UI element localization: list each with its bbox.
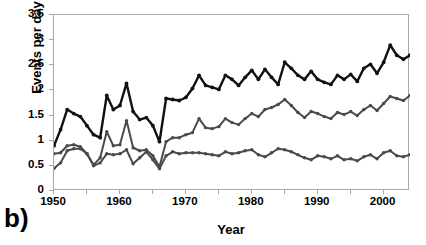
- data-point-marker: [395, 53, 399, 57]
- data-point-marker: [145, 150, 148, 153]
- data-point-marker: [65, 149, 68, 152]
- data-point-marker: [217, 125, 220, 128]
- data-point-marker: [342, 77, 346, 81]
- data-point-marker: [256, 77, 260, 81]
- data-point-marker: [270, 75, 274, 79]
- data-point-marker: [171, 150, 174, 153]
- data-point-marker: [191, 151, 194, 154]
- data-point-marker: [336, 154, 339, 157]
- data-point-marker: [388, 43, 392, 47]
- data-point-marker: [349, 157, 352, 160]
- data-point-marker: [243, 75, 247, 79]
- data-point-marker: [283, 98, 286, 101]
- data-point-marker: [79, 147, 82, 150]
- data-point-marker: [237, 123, 240, 126]
- data-point-marker: [164, 140, 167, 143]
- data-point-marker: [151, 158, 154, 161]
- data-point-marker: [402, 57, 406, 61]
- data-point-marker: [184, 133, 187, 136]
- data-point-marker: [171, 136, 174, 139]
- x-tick-mark: [317, 190, 318, 194]
- data-point-marker: [395, 154, 398, 157]
- x-tick-mark: [383, 190, 384, 194]
- data-point-marker: [382, 151, 385, 154]
- data-point-marker: [178, 136, 181, 139]
- x-tick-mark: [251, 190, 252, 194]
- data-point-marker: [342, 158, 345, 161]
- y-tick-label: 1.5: [0, 109, 44, 121]
- data-point-marker: [112, 144, 115, 147]
- y-tick-label: 3: [0, 33, 44, 45]
- x-tick-mark: [152, 190, 153, 194]
- data-point-marker: [118, 152, 121, 155]
- data-series-middle: [54, 94, 410, 169]
- x-tick-mark: [350, 190, 351, 194]
- data-point-marker: [355, 79, 359, 83]
- data-point-marker: [250, 148, 253, 151]
- data-point-marker: [316, 154, 319, 157]
- data-point-marker: [336, 73, 340, 77]
- data-point-marker: [263, 108, 266, 111]
- data-point-marker: [382, 60, 386, 64]
- y-tick-label: 2.5: [0, 58, 44, 70]
- data-point-marker: [309, 110, 312, 113]
- data-point-marker: [296, 111, 299, 114]
- data-point-marker: [323, 115, 326, 118]
- y-tick-label: 0: [0, 184, 44, 196]
- data-point-marker: [177, 99, 181, 103]
- data-point-marker: [329, 82, 333, 86]
- data-point-marker: [329, 157, 332, 160]
- data-point-marker: [217, 88, 221, 92]
- data-point-marker: [389, 149, 392, 152]
- data-point-marker: [224, 117, 227, 120]
- data-point-marker: [270, 151, 273, 154]
- x-tick-mark: [119, 190, 120, 194]
- data-point-marker: [276, 103, 279, 106]
- data-point-marker: [375, 157, 378, 160]
- data-point-marker: [204, 84, 208, 88]
- y-tick-label: 1: [0, 134, 44, 146]
- data-point-marker: [349, 72, 353, 76]
- data-point-marker: [250, 68, 254, 72]
- x-tick-label: 1990: [294, 196, 340, 208]
- data-point-marker: [197, 151, 200, 154]
- data-point-marker: [151, 124, 155, 128]
- data-point-marker: [210, 86, 214, 90]
- data-point-marker: [323, 155, 326, 158]
- data-point-marker: [72, 143, 75, 146]
- data-point-marker: [184, 151, 187, 154]
- data-point-marker: [329, 117, 332, 120]
- data-point-marker: [375, 71, 379, 75]
- data-point-marker: [98, 156, 101, 159]
- data-point-marker: [85, 152, 88, 155]
- data-point-marker: [178, 152, 181, 155]
- data-point-marker: [131, 146, 134, 149]
- data-point-marker: [369, 153, 372, 156]
- data-point-marker: [369, 62, 373, 66]
- x-tick-mark: [53, 190, 54, 194]
- data-point-marker: [197, 117, 200, 120]
- data-point-marker: [283, 60, 287, 64]
- y-tick-label: 3.5: [0, 8, 44, 20]
- data-point-marker: [131, 162, 134, 165]
- data-point-marker: [59, 151, 62, 154]
- data-point-marker: [230, 152, 233, 155]
- data-point-marker: [369, 104, 372, 107]
- data-point-marker: [309, 69, 313, 73]
- x-tick-label: 1980: [228, 196, 274, 208]
- data-point-marker: [211, 153, 214, 156]
- data-point-marker: [303, 116, 306, 119]
- data-point-marker: [243, 117, 246, 120]
- data-point-marker: [316, 77, 320, 81]
- data-point-marker: [237, 151, 240, 154]
- data-point-marker: [382, 102, 385, 105]
- data-point-marker: [72, 112, 76, 116]
- data-point-marker: [98, 161, 101, 164]
- data-point-marker: [356, 159, 359, 162]
- data-point-marker: [257, 115, 260, 118]
- data-point-marker: [197, 73, 201, 77]
- data-point-marker: [191, 87, 195, 91]
- data-point-marker: [72, 147, 75, 150]
- data-point-marker: [356, 114, 359, 117]
- data-point-marker: [164, 154, 167, 157]
